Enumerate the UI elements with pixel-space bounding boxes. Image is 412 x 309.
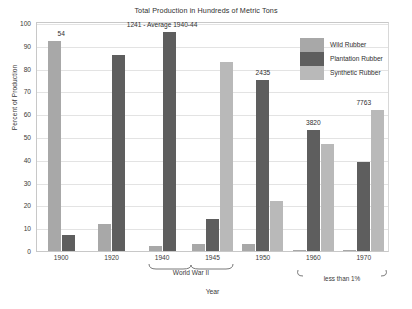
bar-wild-rubber-1900	[48, 41, 61, 251]
y-tick-label: 40	[24, 156, 31, 163]
legend-item[interactable]: Plantation Rubber	[300, 52, 404, 66]
y-tick-label: 30	[24, 179, 31, 186]
x-tick-label: 1940	[155, 254, 170, 261]
bar-plantation-rubber-1970	[357, 162, 370, 251]
y-tick-label: 90	[24, 42, 31, 49]
bar-synthetic-rubber-1970	[371, 110, 384, 251]
bar-synthetic-rubber-1950	[270, 201, 283, 251]
bar-synthetic-rubber-1960	[321, 144, 334, 251]
y-tick-label: 10	[24, 225, 31, 232]
bar-plantation-rubber-1960	[307, 130, 320, 251]
bar-synthetic-rubber-1945	[220, 62, 233, 251]
x-axis-title: Year	[36, 288, 389, 295]
bar-plantation-rubber-1950	[256, 80, 269, 251]
bar-wild-rubber-1945	[192, 244, 205, 251]
x-tick-label: 1950	[256, 254, 271, 261]
x-tick-label: 1945	[205, 254, 220, 261]
legend-swatch-icon	[300, 38, 324, 52]
bar-value-label: 2435	[256, 69, 271, 76]
bar-wild-rubber-1950	[242, 244, 255, 251]
y-tick-label: 0	[27, 248, 31, 255]
legend-item-label: Plantation Rubber	[330, 52, 383, 66]
chart-legend: Wild RubberPlantation RubberSynthetic Ru…	[300, 38, 404, 80]
legend-item[interactable]: Wild Rubber	[300, 38, 404, 52]
bar-wild-rubber-1940	[149, 246, 162, 251]
legend-item[interactable]: Synthetic Rubber	[300, 66, 404, 80]
world-war-two-label: World War II	[148, 269, 234, 276]
bar-plantation-rubber-1940	[163, 32, 176, 251]
y-axis-ticks: 0102030405060708090100	[0, 22, 34, 252]
rubber-production-chart: Total Production in Hundreds of Metric T…	[0, 0, 412, 309]
legend-item-label: Synthetic Rubber	[330, 66, 381, 80]
bar-value-label: 3820	[306, 119, 321, 126]
less-than-one-percent-label: less than 1%	[294, 275, 390, 282]
y-tick-label: 70	[24, 88, 31, 95]
y-tick-label: 60	[24, 111, 31, 118]
x-tick-label: 1920	[104, 254, 119, 261]
y-tick-label: 100	[20, 20, 31, 27]
bar-value-label: 7763	[356, 99, 371, 106]
bar-plantation-rubber-1900	[62, 235, 75, 251]
x-tick-label: 1900	[54, 254, 69, 261]
bar-wild-rubber-1960	[293, 250, 306, 252]
legend-item-label: Wild Rubber	[330, 38, 366, 52]
bar-plantation-rubber-1920	[112, 55, 125, 251]
y-tick-label: 50	[24, 134, 31, 141]
chart-title: Total Production in Hundreds of Metric T…	[0, 6, 412, 15]
bar-value-label: 1241 - Average 1940-44	[127, 21, 198, 28]
x-tick-label: 1960	[306, 254, 321, 261]
x-tick-label: 1970	[356, 254, 371, 261]
bar-plantation-rubber-1945	[206, 219, 219, 251]
bar-wild-rubber-1920	[98, 224, 111, 251]
legend-swatch-icon	[300, 66, 324, 80]
legend-swatch-icon	[300, 52, 324, 66]
y-tick-label: 20	[24, 202, 31, 209]
y-tick-label: 80	[24, 65, 31, 72]
bar-value-label: 54	[58, 30, 65, 37]
bar-wild-rubber-1970	[343, 250, 356, 252]
